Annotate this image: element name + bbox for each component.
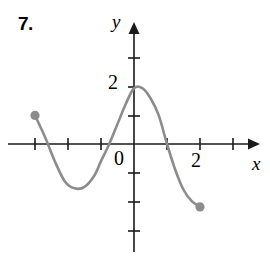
y-axis-arrowhead [129,22,140,34]
graph-svg [0,0,270,257]
x-axis-arrowhead [248,139,260,150]
y-axis-tick-label-2: 2 [108,72,118,92]
y-axis-label: y [112,12,120,31]
origin-label: 0 [114,148,124,168]
curve-end-endpoint-dot [195,202,204,211]
curve-start-endpoint-dot [30,111,39,120]
figure-container: 7. y [0,0,270,257]
x-axis-label: x [252,154,260,173]
x-axis-tick-label-2: 2 [191,150,201,170]
